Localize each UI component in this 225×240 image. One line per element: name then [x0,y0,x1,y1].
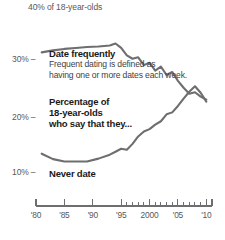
annotation-percentage-line3: who say that they... [49,118,132,129]
x-axis-label-95: '95 [116,210,126,220]
annotation-never-date-title: Never date [49,168,96,179]
annotation-percentage-line2: 18-year-olds [49,107,132,118]
x-axis-label-90: '90 [88,210,98,220]
annotation-percentage-line1: Percentage of [49,96,132,107]
annotation-date-frequently: Date frequently Frequent dating is defin… [49,48,187,80]
annotation-percentage: Percentage of 18-year-olds who say that … [49,96,132,129]
annotation-date-frequently-title: Date frequently [49,48,187,59]
annotation-date-frequently-line2: having one or more dates each week. [49,70,187,81]
x-axis-label-80: '80 [31,210,41,220]
annotation-never-date: Never date [49,168,96,179]
chart-container: 40% of 18-year-olds 30%– 20%– 10%– Date … [0,0,225,240]
x-axis-label-2000: 2000 [141,210,159,220]
x-axis-label-85: '85 [59,210,69,220]
annotation-date-frequently-line1: Frequent dating is defined as [49,59,187,70]
x-axis-label-10: '10 [201,210,211,220]
x-axis-label-05: '05 [173,210,183,220]
x-axis-group [36,199,212,206]
